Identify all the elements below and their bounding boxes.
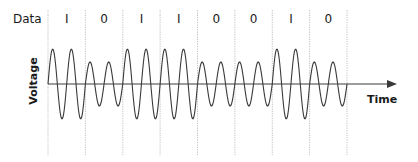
data-row-label: Data — [13, 12, 42, 26]
bit-value-label: 0 — [212, 12, 220, 26]
time-axis-label: Time — [367, 93, 397, 106]
bit-value-label: I — [65, 12, 69, 26]
time-axis-arrow-icon — [387, 80, 397, 88]
bit-value-label: 0 — [324, 12, 332, 26]
diagram-canvas: Data I0II00I0 Time Voltage — [0, 0, 418, 162]
bit-value-label: 0 — [250, 12, 258, 26]
bit-value-label: I — [140, 12, 144, 26]
bit-value-label: I — [289, 12, 293, 26]
voltage-axis-label: Voltage — [27, 57, 40, 104]
bit-value-label: 0 — [100, 12, 108, 26]
bit-value-label: I — [177, 12, 181, 26]
bit-labels: I0II00I0 — [65, 12, 332, 26]
ask-modulation-diagram: Data I0II00I0 Time Voltage — [0, 0, 418, 162]
